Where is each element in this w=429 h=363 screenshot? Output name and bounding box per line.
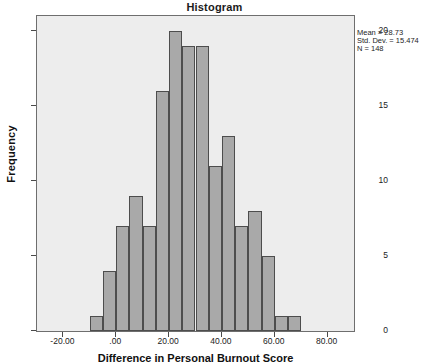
y-tick-mark xyxy=(31,330,36,331)
x-tick-label: 60.00 xyxy=(252,336,296,346)
y-tick-label: 10 xyxy=(379,175,388,185)
x-tick-label: 20.00 xyxy=(146,336,190,346)
x-tick-mark xyxy=(115,332,116,337)
x-tick-mark xyxy=(168,332,169,337)
sample-size-value: N = 148 xyxy=(357,45,419,53)
x-axis-title: Difference in Personal Burnout Score xyxy=(36,352,355,363)
y-tick-label: 5 xyxy=(383,250,388,260)
normal-curve-overlay xyxy=(37,16,354,331)
x-tick-mark xyxy=(221,332,222,337)
y-tick-label: 15 xyxy=(379,100,388,110)
x-tick-mark xyxy=(274,332,275,337)
x-tick-mark xyxy=(327,332,328,337)
y-tick-mark xyxy=(31,105,36,106)
x-tick-label: 80.00 xyxy=(305,336,349,346)
x-tick-label: -20.00 xyxy=(40,336,84,346)
x-tick-label: .00 xyxy=(93,336,137,346)
y-tick-mark xyxy=(31,180,36,181)
histogram-chart: Histogram Frequency 05101520 -20.00.0020… xyxy=(0,0,429,363)
plot-inner xyxy=(37,16,354,331)
statistics-annotation: Mean = 28.73 Std. Dev. = 15.474 N = 148 xyxy=(357,29,419,54)
y-tick-label: 0 xyxy=(383,325,388,335)
plot-area xyxy=(36,15,355,332)
chart-title: Histogram xyxy=(0,1,429,13)
y-tick-mark xyxy=(31,255,36,256)
y-tick-mark xyxy=(31,30,36,31)
x-tick-mark xyxy=(62,332,63,337)
x-tick-label: 40.00 xyxy=(199,336,243,346)
y-axis-title: Frequency xyxy=(5,109,17,199)
